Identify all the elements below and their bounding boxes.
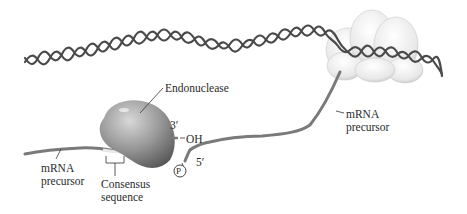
label-consensus-line2: sequence <box>101 191 143 203</box>
endonuclease-protein <box>100 100 175 168</box>
label-five-prime: 5′ <box>196 156 204 168</box>
label-mrna-left-line2: precursor <box>41 175 84 187</box>
five-prime-end <box>185 150 190 161</box>
diagram-canvas: Endonuclease 3′ OH 5′ P mRNA precursor C… <box>0 0 467 214</box>
label-endonuclease: Endonuclease <box>165 82 229 94</box>
label-mrna-left-line1: mRNA <box>41 162 74 174</box>
label-mrna-right-line1: mRNA <box>346 108 379 120</box>
label-consensus-line1: Consensus <box>101 178 150 190</box>
label-mrna-right-line2: precursor <box>346 121 389 133</box>
label-hydroxyl: OH <box>186 133 203 145</box>
label-three-prime: 3′ <box>170 119 178 131</box>
label-phosphate: P <box>176 165 181 177</box>
